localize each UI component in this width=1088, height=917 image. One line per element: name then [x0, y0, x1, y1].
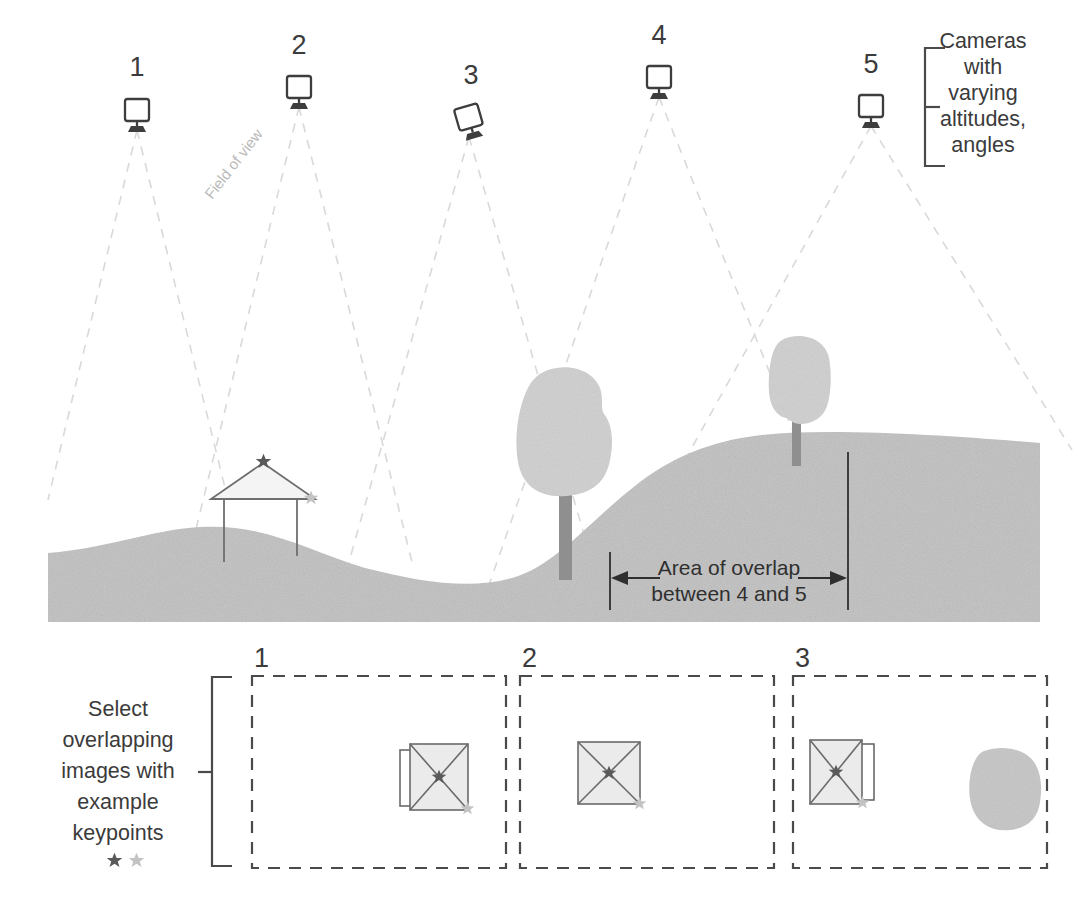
- select-note-line-1: Select: [88, 697, 148, 721]
- select-note-bracket: [212, 677, 232, 866]
- camera-5-label: 5: [863, 49, 878, 79]
- overlap-label-line-2: between 4 and 5: [651, 582, 806, 605]
- camera-4-icon: [647, 66, 671, 99]
- cameras-note-line-5: angles: [951, 133, 1014, 157]
- cameras-note-line-2: with: [963, 55, 1002, 79]
- image-panel-2-house-plan: [578, 742, 646, 809]
- image-panel-1[interactable]: 1: [252, 643, 506, 868]
- field-of-view-label: Field of view: [201, 126, 266, 202]
- image-panel-2-frame: [520, 676, 774, 868]
- select-note-group: Select overlapping images with example k…: [61, 697, 175, 867]
- select-note-line-4: example: [77, 790, 158, 814]
- camera-5[interactable]: 5: [859, 49, 883, 128]
- camera-2-label: 2: [291, 30, 306, 60]
- camera-1[interactable]: 1: [125, 52, 149, 132]
- fov-cone-camera-3: [345, 137, 596, 576]
- image-panel-1-label: 1: [254, 643, 269, 673]
- cameras-note-line-1: Cameras: [939, 29, 1026, 53]
- camera-5-icon: [859, 95, 883, 128]
- camera-1-label: 1: [129, 52, 144, 82]
- camera-3[interactable]: 3: [454, 60, 486, 142]
- select-note-line-2: overlapping: [62, 728, 173, 752]
- image-panel-2-label: 2: [522, 643, 537, 673]
- cameras-note-line-4: altitudes,: [940, 107, 1026, 131]
- image-panel-3-label: 3: [795, 643, 810, 673]
- panel-3-tree-blob: [969, 748, 1041, 830]
- tree-left-canopy: [516, 367, 612, 496]
- overlap-label-line-1: Area of overlap: [658, 556, 800, 579]
- camera-4[interactable]: 4: [647, 20, 671, 99]
- select-note-line-5: keypoints: [73, 821, 164, 845]
- field-of-view-text: Field of view: [201, 126, 266, 202]
- select-note-line-3: images with: [61, 759, 175, 783]
- tree-right-canopy: [769, 336, 831, 424]
- camera-4-label: 4: [651, 20, 666, 50]
- diagram-canvas: Field of view 1 2: [0, 0, 1088, 917]
- image-panel-1-house-plan: [400, 744, 474, 814]
- legend-star-dark: [107, 853, 123, 867]
- camera-3-icon: [454, 103, 486, 141]
- select-note-bracket-group: [198, 677, 232, 866]
- camera-1-icon: [125, 99, 149, 132]
- camera-3-label: 3: [463, 60, 478, 90]
- image-panel-3[interactable]: 3: [793, 643, 1047, 868]
- fov-cone-camera-1: [48, 130, 228, 500]
- cameras-note-line-3: varying: [948, 81, 1017, 105]
- image-panel-3-house-plan: [810, 740, 874, 808]
- camera-2[interactable]: 2: [287, 30, 311, 109]
- legend-star-light: [129, 853, 145, 867]
- house-roof: [211, 463, 315, 499]
- image-panel-2[interactable]: 2: [520, 643, 774, 868]
- scene-svg: Field of view 1 2: [0, 0, 1088, 917]
- camera-2-icon: [287, 76, 311, 109]
- cameras-bracket-group: Cameras with varying altitudes, angles: [925, 29, 1027, 166]
